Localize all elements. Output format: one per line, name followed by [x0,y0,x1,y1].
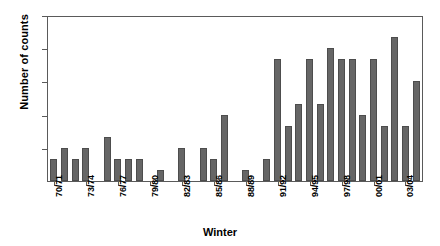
bar-slot [208,16,219,181]
bar-slot [379,16,390,181]
x-label-slot [102,186,113,220]
bar-slot [294,16,305,181]
y-axis-title: Number of counts [18,0,30,142]
x-label-slot [134,186,145,220]
x-label-slot [219,186,230,220]
bar [327,48,334,181]
bar-slot [166,16,177,181]
bar-slot [198,16,209,181]
bar [295,104,302,181]
x-label-slot: 85/86 [208,186,219,220]
bar-slot [155,16,166,181]
x-label-slot [358,186,369,220]
bar-slot [230,16,241,181]
bar-slot [187,16,198,181]
x-label-slot: 82/83 [176,186,187,220]
x-label-slot: 79/80 [144,186,155,220]
x-label-slot: 97/98 [336,186,347,220]
x-label-slot [379,186,390,220]
bar-slot [304,16,315,181]
bar-slot [123,16,134,181]
x-label-slot [390,186,401,220]
bar [200,148,207,181]
x-label-slot [155,186,166,220]
bar-slot [326,16,337,181]
bar [370,59,377,181]
bar-slot [400,16,411,181]
bar [381,126,388,181]
x-label-slot: 00/01 [368,186,379,220]
bar-slot [219,16,230,181]
bar-slot [251,16,262,181]
bar [338,59,345,181]
bar [104,137,111,181]
bar-slot [262,16,273,181]
x-label-slot: 94/95 [304,186,315,220]
x-label-slot: 03/04 [400,186,411,220]
x-label-slot [251,186,262,220]
x-label-slot [315,186,326,220]
x-label-slot [166,186,177,220]
x-label-slot: 88/89 [240,186,251,220]
bar-series [49,16,422,181]
bar-slot [176,16,187,181]
bar-slot [336,16,347,181]
bar-slot [240,16,251,181]
x-label-slot: 70/71 [49,186,60,220]
bar [349,59,356,181]
bar-slot [70,16,81,181]
bar-chart: Number of counts 03691215 70/7173/7476/7… [0,0,440,246]
bar-slot [315,16,326,181]
bar-slot [102,16,113,181]
x-label-slot [70,186,81,220]
bar-slot [91,16,102,181]
bar [306,59,313,181]
bar-slot [49,16,60,181]
x-label-slot [198,186,209,220]
x-label-slot [187,186,198,220]
x-axis-title: Winter [0,226,440,238]
bar [72,159,79,181]
bar [413,81,420,181]
bar [274,59,281,181]
x-label-slot [347,186,358,220]
x-label-slot [91,186,102,220]
x-label-slot [283,186,294,220]
bar-slot [390,16,401,181]
bar-slot [144,16,155,181]
bar [402,126,409,181]
x-label-slot [294,186,305,220]
bar-slot [80,16,91,181]
bar [136,159,143,181]
bar [263,159,270,181]
bar-slot [283,16,294,181]
bar [221,115,228,181]
bar-slot [112,16,123,181]
bar-slot [347,16,358,181]
x-label-slot [230,186,241,220]
bar [359,115,366,181]
bar [391,37,398,181]
x-label-slot: 91/92 [272,186,283,220]
bar-slot [368,16,379,181]
x-label-slot [59,186,70,220]
x-label-slot [411,186,422,220]
x-axis-tick-labels: 70/7173/7476/7779/8082/8385/8688/8991/92… [49,186,422,220]
bar [317,104,324,181]
bar-slot [134,16,145,181]
x-label-slot [326,186,337,220]
x-label-slot [123,186,134,220]
bar-slot [272,16,283,181]
bar-slot [411,16,422,181]
bar [285,126,292,181]
bar-slot [59,16,70,181]
x-label-slot [262,186,273,220]
x-label-slot: 73/74 [80,186,91,220]
x-label-slot: 76/77 [112,186,123,220]
bar-slot [358,16,369,181]
